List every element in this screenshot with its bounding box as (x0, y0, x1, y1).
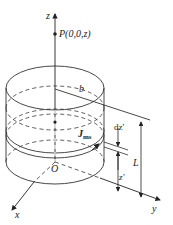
z-axis-label: z (45, 10, 50, 21)
x-axis (12, 182, 34, 210)
length-l-label: L (132, 157, 139, 168)
z-prime-label: z′ (118, 172, 126, 182)
x-axis-label: x (14, 209, 20, 220)
dz-label: dz′ (114, 122, 124, 132)
radius-b-label: b (79, 83, 84, 94)
diagram-canvas: z P(0,0,z) b Jms dz′ z′ L O x y (0, 0, 173, 225)
slice-ext-top (104, 142, 128, 150)
y-axis (100, 178, 160, 200)
slice-center-dot (53, 120, 56, 123)
point-p-label: P(0,0,z) (58, 28, 91, 40)
slice-ext-bottom (104, 147, 128, 155)
jms-label: Jms (77, 128, 92, 141)
point-p-dot (53, 32, 57, 36)
origin-label: O (51, 163, 58, 174)
y-axis-label: y (151, 203, 157, 214)
cylinder-diagram: z P(0,0,z) b Jms dz′ z′ L O x y (0, 0, 173, 225)
